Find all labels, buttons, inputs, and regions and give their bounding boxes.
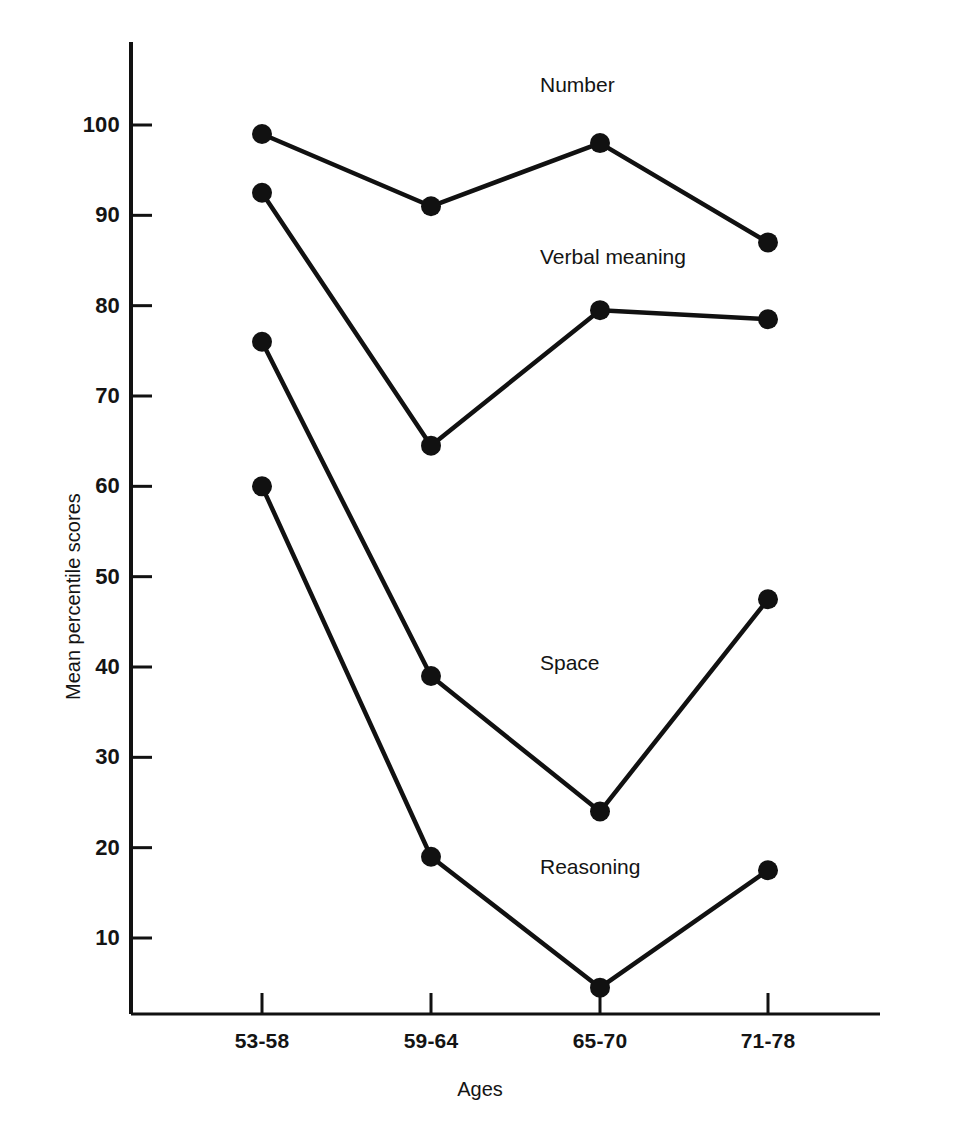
data-point-marker: [590, 802, 610, 822]
y-axis-ticks: [131, 125, 152, 938]
x-axis-title: Ages: [0, 1078, 960, 1101]
data-point-marker: [421, 196, 441, 216]
series-label-reasoning: Reasoning: [540, 855, 640, 879]
line-chart-canvas: [0, 0, 960, 1142]
data-point-marker: [758, 860, 778, 880]
y-axis-tick-label: 30: [40, 744, 120, 770]
series-label-space: Space: [540, 651, 600, 675]
data-point-marker: [421, 847, 441, 867]
y-axis-tick-label: 100: [40, 112, 120, 138]
series-line: [262, 342, 768, 812]
y-axis-tick-label: 20: [40, 835, 120, 861]
data-point-marker: [758, 589, 778, 609]
y-axis-tick-label: 70: [40, 383, 120, 409]
x-axis-tick-label: 53-58: [235, 1029, 290, 1053]
y-axis-tick-label: 90: [40, 202, 120, 228]
series-label-number: Number: [540, 73, 615, 97]
data-point-marker: [252, 183, 272, 203]
data-series-group: [252, 124, 778, 998]
series-line: [262, 486, 768, 987]
data-point-marker: [421, 436, 441, 456]
data-point-marker: [590, 978, 610, 998]
x-axis-ticks: [262, 993, 768, 1014]
y-axis-tick-label: 80: [40, 293, 120, 319]
chart-figure: 102030405060708090100 53-5859-6465-7071-…: [0, 0, 960, 1142]
data-point-marker: [758, 309, 778, 329]
x-axis-tick-label: 65-70: [573, 1029, 628, 1053]
data-point-marker: [590, 133, 610, 153]
data-point-marker: [252, 124, 272, 144]
series-line: [262, 193, 768, 446]
x-axis-tick-label: 71-78: [741, 1029, 796, 1053]
series-line: [262, 134, 768, 242]
data-point-marker: [252, 332, 272, 352]
data-point-marker: [758, 232, 778, 252]
y-axis-tick-label: 10: [40, 925, 120, 951]
x-axis-tick-label: 59-64: [404, 1029, 459, 1053]
data-point-marker: [590, 300, 610, 320]
y-axis-title: Mean percentile scores: [62, 493, 85, 700]
data-point-marker: [252, 476, 272, 496]
data-point-marker: [421, 666, 441, 686]
series-label-verbal-meaning: Verbal meaning: [540, 245, 686, 269]
